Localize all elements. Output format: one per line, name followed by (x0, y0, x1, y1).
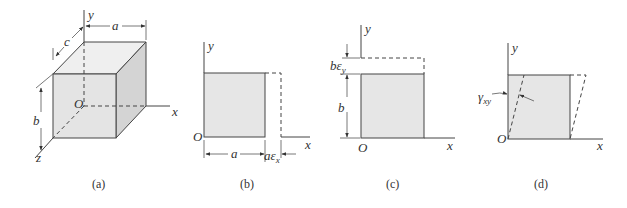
z-axis-label: z (35, 150, 41, 165)
caption-a: (a) (92, 177, 105, 191)
dim-a-label: a (112, 18, 119, 33)
dim-a-label: a (231, 146, 238, 161)
square (361, 74, 424, 138)
x-axis-label: x (304, 137, 311, 152)
figure-b-x-strain: y O x a aεx (b) (193, 38, 311, 191)
elongation-label: bεy (330, 58, 346, 75)
y-axis-label: y (206, 38, 214, 53)
strain-diagram: y a c b O z x (a) y O x a aεx (b) (0, 0, 627, 208)
caption-d: (d) (534, 177, 548, 191)
caption-c: (c) (386, 177, 399, 191)
figure-c-y-strain: y bεy b O x (c) (330, 21, 455, 191)
square (508, 75, 570, 139)
x-axis-label: x (446, 138, 453, 153)
x-axis-label: x (596, 138, 603, 153)
x-axis-label: x (171, 104, 178, 119)
y-axis-label: y (363, 21, 371, 36)
shear-label: γxy (478, 89, 491, 106)
square (204, 73, 265, 137)
figure-d-shear-strain: y γxy O x (d) (478, 40, 603, 191)
caption-b: (b) (240, 177, 254, 191)
origin-label: O (497, 131, 507, 146)
figure-a-cube: y a c b O z x (a) (33, 7, 178, 191)
origin-label: O (193, 129, 203, 144)
dim-b-label: b (33, 113, 40, 128)
origin-label: O (358, 140, 368, 155)
dim-c-label: c (64, 34, 70, 49)
y-axis-label: y (86, 7, 94, 22)
dim-b-label: b (338, 100, 345, 115)
elongation-label: aεx (264, 148, 280, 165)
origin-label: O (74, 96, 84, 111)
y-axis-label: y (510, 40, 518, 55)
